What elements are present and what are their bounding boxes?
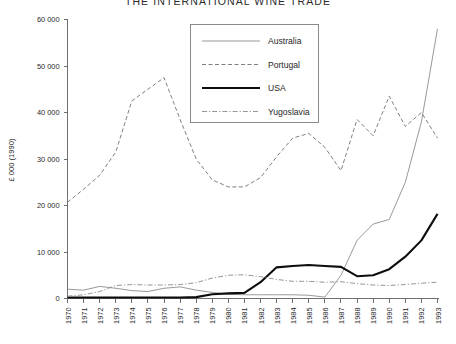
x-tick-label: 1971 bbox=[80, 308, 89, 324]
x-tick-label: 1986 bbox=[321, 308, 330, 324]
x-tick-label: 1992 bbox=[417, 308, 426, 324]
legend-label-yugoslavia: Yugoslavia bbox=[268, 107, 310, 117]
x-tick-label: 1985 bbox=[305, 308, 314, 324]
x-tick-label: 1987 bbox=[337, 308, 346, 324]
x-tick-label: 1988 bbox=[353, 308, 362, 324]
x-tick-label: 1982 bbox=[257, 308, 266, 324]
x-tick-label: 1991 bbox=[401, 308, 410, 324]
y-tick-label: 50 000 bbox=[37, 62, 60, 71]
x-tick-label: 1973 bbox=[112, 308, 121, 324]
x-tick-label: 1974 bbox=[128, 308, 137, 324]
x-axis: 1970197119721973197419751976197719781979… bbox=[64, 299, 443, 324]
chart-legend: AustraliaPortugalUSAYugoslavia bbox=[190, 24, 318, 122]
legend-label-usa: USA bbox=[268, 83, 286, 93]
series-line-yugoslavia bbox=[68, 275, 438, 296]
x-tick-label: 1979 bbox=[208, 308, 217, 324]
x-tick-label: 1970 bbox=[64, 308, 73, 324]
x-tick-label: 1989 bbox=[369, 308, 378, 324]
legend-label-australia: Australia bbox=[268, 36, 302, 46]
x-tick-label: 1984 bbox=[289, 308, 298, 324]
x-tick-label: 1990 bbox=[385, 308, 394, 324]
y-tick-label: 40 000 bbox=[37, 108, 60, 117]
x-tick-label: 1980 bbox=[224, 308, 233, 324]
x-tick-label: 1975 bbox=[144, 308, 153, 324]
x-tick-label: 1977 bbox=[176, 308, 185, 324]
wine-trade-chart: THE INTERNATIONAL WINE TRADE 010 00020 0… bbox=[0, 0, 456, 344]
x-tick-label: 1978 bbox=[192, 308, 201, 324]
x-tick-label: 1983 bbox=[273, 308, 282, 324]
legend-label-portugal: Portugal bbox=[268, 60, 300, 70]
y-tick-label: 10 000 bbox=[37, 248, 60, 257]
y-axis: 010 00020 00030 00040 00050 00060 000£ 0… bbox=[7, 15, 68, 303]
x-tick-label: 1981 bbox=[240, 308, 249, 324]
y-tick-label: 30 000 bbox=[37, 155, 60, 164]
x-tick-label: 1993 bbox=[434, 308, 443, 324]
x-tick-label: 1976 bbox=[160, 308, 169, 324]
y-tick-label: 0 bbox=[55, 294, 59, 303]
y-axis-title: £ 000 (1990) bbox=[7, 138, 16, 182]
y-tick-label: 60 000 bbox=[37, 15, 60, 24]
chart-plot-area: 010 00020 00030 00040 00050 00060 000£ 0… bbox=[0, 0, 456, 344]
y-tick-label: 20 000 bbox=[37, 201, 60, 210]
x-tick-label: 1972 bbox=[96, 308, 105, 324]
